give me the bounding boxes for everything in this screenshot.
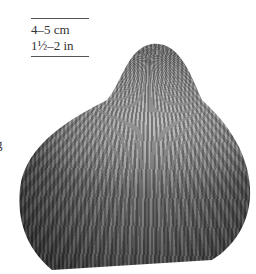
clipped-caption-text: g bbox=[0, 136, 3, 152]
shell-ribs bbox=[12, 38, 256, 274]
shell-body bbox=[12, 38, 256, 274]
size-metric: 4–5 cm bbox=[31, 22, 89, 38]
shell-photo bbox=[12, 38, 256, 274]
